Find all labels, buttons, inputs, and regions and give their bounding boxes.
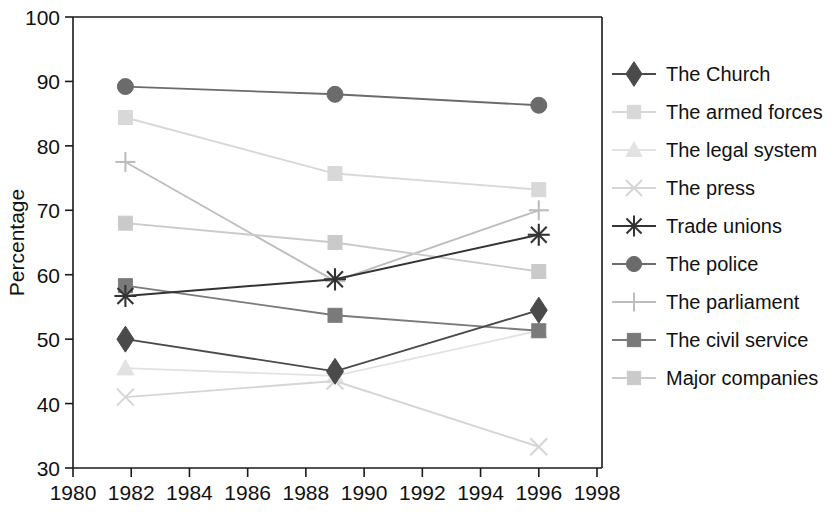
legend-label: Trade unions [666,215,782,237]
marker-circle [117,79,133,95]
marker-square [532,183,546,197]
x-tick-label: 1994 [457,481,504,504]
legend-label: The press [666,177,755,199]
marker-circle [531,97,547,113]
y-tick-label: 100 [25,6,60,29]
marker-square [328,236,342,250]
legend-label: The civil service [666,329,808,351]
chart-canvas: 30405060708090100Percentage1980198219841… [0,0,836,526]
legend-label: The police [666,253,758,275]
legend-item[interactable]: Major companies [612,367,818,389]
y-axis: 30405060708090100 [25,6,73,480]
y-tick-label: 90 [37,70,60,93]
marker-square [118,111,132,125]
x-tick-label: 1986 [224,481,271,504]
legend-item[interactable]: The civil service [612,329,808,351]
series-the-armed-forces [118,111,545,197]
legend-label: The legal system [666,139,817,161]
y-tick-label: 40 [37,393,60,416]
y-tick-label: 80 [37,135,60,158]
series-the-police [117,79,546,114]
marker-square [627,105,640,118]
marker-diamond [530,297,547,323]
x-tick-label: 1996 [515,481,562,504]
x-tick-label: 1984 [166,481,213,504]
x-tick-label: 1982 [108,481,155,504]
y-tick-label: 60 [37,264,60,287]
x-tick-label: 1988 [283,481,330,504]
legend-label: The parliament [666,291,800,313]
legend-label: The armed forces [666,101,823,123]
series-the-civil-service [118,279,545,338]
marker-circle [626,256,641,271]
legend: The ChurchThe armed forcesThe legal syst… [612,62,823,389]
x-tick-label: 1998 [574,481,621,504]
marker-triangle [117,360,134,375]
marker-square [328,167,342,181]
legend-item[interactable]: The police [612,253,758,275]
marker-square [627,371,640,384]
legend-label: Major companies [666,367,818,389]
y-tick-label: 50 [37,328,60,351]
legend-item[interactable]: The parliament [612,291,800,313]
x-tick-label: 1992 [399,481,446,504]
marker-square [532,264,546,278]
marker-diamond [117,326,134,352]
marker-square [328,308,342,322]
marker-square [627,333,640,346]
legend-item[interactable]: The armed forces [612,101,823,123]
line-chart: 30405060708090100Percentage1980198219841… [0,0,836,526]
x-tick-label: 1990 [341,481,388,504]
x-axis: 1980198219841986198819901992199419961998 [50,468,621,504]
legend-item[interactable]: The press [612,177,755,199]
marker-circle [327,86,343,102]
y-tick-label: 70 [37,199,60,222]
legend-label: The Church [666,63,771,85]
series-the-press [117,373,547,456]
y-tick-label: 30 [37,457,60,480]
marker-square [532,324,546,338]
legend-item[interactable]: The legal system [612,139,817,161]
x-tick-label: 1980 [50,481,97,504]
legend-item[interactable]: The Church [612,62,771,87]
marker-diamond [626,62,642,87]
marker-square [118,216,132,230]
legend-item[interactable]: Trade unions [612,215,782,237]
y-axis-title: Percentage [5,189,28,296]
series-line [125,381,538,447]
